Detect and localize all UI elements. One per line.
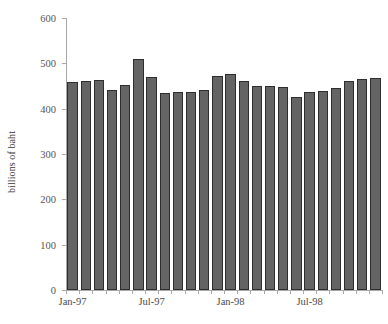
x-tick-mark (92, 291, 93, 294)
x-tick-mark (303, 291, 304, 294)
bar (67, 82, 77, 290)
bar (265, 86, 275, 290)
x-tick-mark (132, 291, 133, 294)
x-tick-mark (145, 291, 146, 294)
x-tick-mark (79, 291, 80, 294)
x-tick-mark (119, 291, 120, 294)
bar-chart-figure: billions of baht 0100200300400500600 Jan… (0, 0, 388, 324)
y-tick-label: 500 (40, 58, 56, 69)
y-tick-label: 300 (40, 149, 56, 160)
bar (120, 85, 130, 290)
x-tick-mark (106, 291, 107, 294)
bar (357, 79, 367, 290)
bar (225, 74, 235, 290)
y-tick-mark (62, 18, 66, 19)
bar (239, 81, 249, 290)
y-tick-mark (62, 290, 66, 291)
bar (318, 91, 328, 290)
y-tick-label: 0 (51, 285, 56, 296)
bar (133, 59, 143, 290)
bar (344, 81, 354, 290)
bar-series (66, 18, 382, 290)
y-axis-tick-labels: 0100200300400500600 (28, 0, 62, 324)
x-tick-label: Jan-98 (217, 296, 245, 307)
y-tick-label: 100 (40, 239, 56, 250)
y-tick-label: 400 (40, 103, 56, 114)
x-tick-mark (369, 291, 370, 294)
bar (199, 90, 209, 290)
x-tick-mark (264, 291, 265, 294)
x-tick-mark (250, 291, 251, 294)
y-tick-mark (62, 109, 66, 110)
x-tick-label: Jan-97 (59, 296, 87, 307)
bar (107, 90, 117, 290)
y-tick-label: 600 (40, 13, 56, 24)
x-tick-mark (290, 291, 291, 294)
x-tick-mark (356, 291, 357, 294)
x-tick-mark (316, 291, 317, 294)
bar (291, 97, 301, 290)
y-axis-title: billions of baht (0, 0, 22, 324)
x-tick-mark (66, 291, 67, 294)
bar (304, 92, 314, 290)
bar (212, 76, 222, 290)
plot-area (66, 18, 382, 290)
x-tick-mark (343, 291, 344, 294)
x-tick-mark (158, 291, 159, 294)
y-tick-mark (62, 245, 66, 246)
x-tick-mark (329, 291, 330, 294)
bar (173, 92, 183, 290)
bar (331, 88, 341, 290)
bar (94, 80, 104, 290)
x-tick-mark (237, 291, 238, 294)
x-tick-mark (224, 291, 225, 294)
bar (146, 77, 156, 290)
x-tick-mark (382, 291, 383, 294)
y-tick-label: 200 (40, 194, 56, 205)
bar (186, 92, 196, 290)
x-tick-label: Jul-97 (138, 296, 164, 307)
y-tick-mark (62, 63, 66, 64)
bar (278, 87, 288, 290)
x-tick-mark (185, 291, 186, 294)
y-tick-mark (62, 154, 66, 155)
x-tick-mark (198, 291, 199, 294)
y-tick-mark (62, 199, 66, 200)
x-tick-label: Jul-98 (296, 296, 322, 307)
bar (81, 81, 91, 290)
x-tick-mark (211, 291, 212, 294)
bar (252, 86, 262, 290)
bar (370, 78, 380, 290)
x-tick-mark (277, 291, 278, 294)
x-tick-mark (171, 291, 172, 294)
bar (160, 93, 170, 290)
x-axis-tick-labels: Jan-97Jul-97Jan-98Jul-98 (0, 296, 388, 314)
